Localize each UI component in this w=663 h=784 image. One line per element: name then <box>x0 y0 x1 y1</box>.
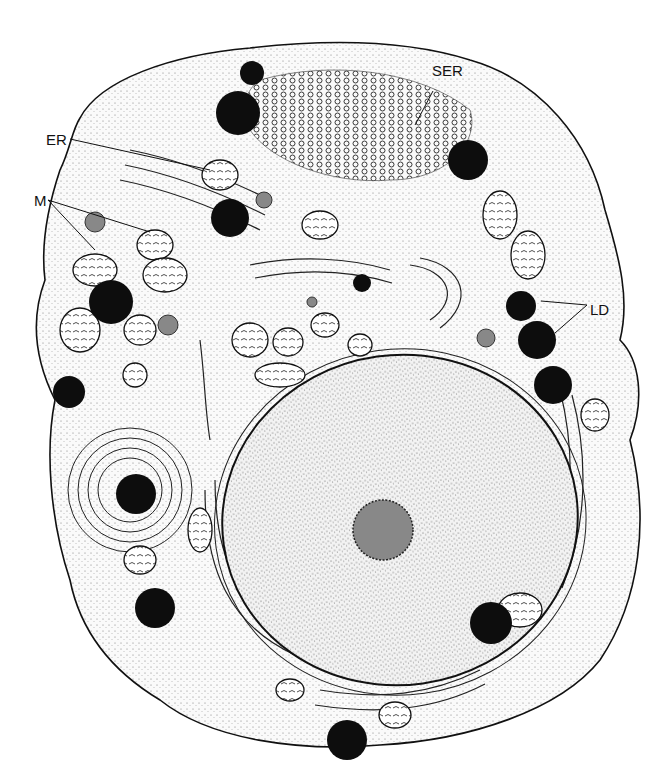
label-ser: SER <box>432 62 463 79</box>
label-er: ER <box>46 131 67 148</box>
nucleolus <box>353 500 413 560</box>
cell-drawing <box>0 0 663 784</box>
label-ld: LD <box>590 301 609 318</box>
label-m: M <box>34 192 47 209</box>
cell-diagram: SER ER M LD <box>0 0 663 784</box>
